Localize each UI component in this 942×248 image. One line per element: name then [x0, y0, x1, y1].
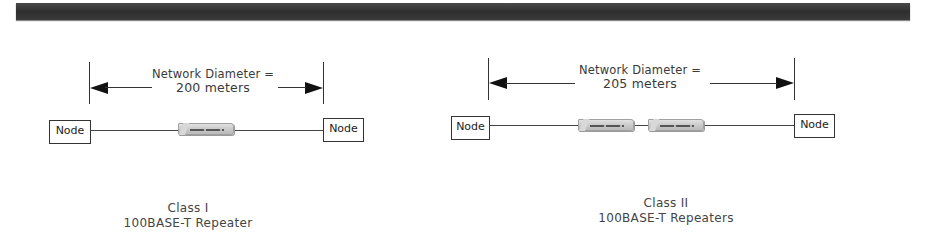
diameter-label: Network Diameter = 200 meters — [152, 67, 274, 95]
repeater-icon — [178, 123, 234, 135]
caption-class: Class II — [598, 196, 733, 211]
repeater-ports — [190, 129, 224, 131]
node-label: Node — [329, 122, 358, 135]
node-label: Node — [800, 118, 829, 131]
arrow-left-icon — [90, 82, 108, 94]
caption: Class II 100BASE-T Repeaters — [598, 196, 733, 226]
arrow-right-icon — [305, 82, 323, 94]
repeater-ports — [590, 125, 624, 127]
node-right: Node — [323, 118, 364, 142]
node-label: Node — [56, 124, 85, 137]
node-left: Node — [49, 120, 91, 144]
node-left: Node — [451, 116, 490, 140]
dimension-boundary-right — [323, 62, 324, 104]
network-link — [489, 125, 795, 126]
node-right: Node — [794, 114, 835, 138]
diameter-label-title: Network Diameter = — [579, 63, 701, 77]
caption-description: 100BASE-T Repeaters — [598, 211, 733, 226]
repeater-icon — [648, 119, 704, 131]
diameter-label-value: 205 meters — [579, 77, 701, 91]
dimension-line-right — [278, 87, 306, 88]
diameter-label: Network Diameter = 205 meters — [579, 63, 701, 91]
diameter-label-value: 200 meters — [152, 81, 274, 95]
dimension-line-right — [710, 83, 777, 84]
repeater-icon — [578, 119, 634, 131]
dimension-boundary-right — [794, 58, 795, 100]
caption: Class I 100BASE-T Repeater — [124, 201, 253, 231]
dimension-line-left — [505, 83, 575, 84]
dimension-line-left — [105, 87, 152, 88]
diameter-label-title: Network Diameter = — [152, 67, 274, 81]
caption-description: 100BASE-T Repeater — [124, 216, 253, 231]
header-bar — [16, 3, 910, 20]
repeater-ports — [660, 125, 694, 127]
arrow-right-icon — [776, 77, 794, 89]
node-label: Node — [456, 120, 485, 133]
caption-class: Class I — [124, 201, 253, 216]
